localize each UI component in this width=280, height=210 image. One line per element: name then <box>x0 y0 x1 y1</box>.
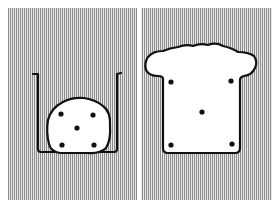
dot <box>58 111 63 116</box>
figure <box>0 0 280 210</box>
dot <box>168 142 173 147</box>
blob-shape <box>47 98 110 153</box>
dot <box>168 79 173 84</box>
dot <box>91 142 96 147</box>
dot <box>90 112 95 117</box>
dot <box>199 109 204 114</box>
left-panel <box>8 8 137 200</box>
dot <box>74 125 79 130</box>
dot <box>229 141 234 146</box>
figure-svg <box>0 0 280 210</box>
bread-slice-shape <box>145 44 256 153</box>
right-panel <box>141 8 272 200</box>
dot <box>59 142 64 147</box>
dot <box>228 78 233 83</box>
